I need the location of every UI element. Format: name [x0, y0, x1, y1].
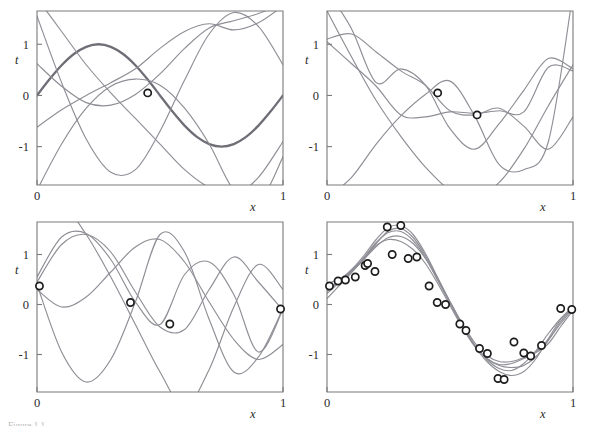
data-point [389, 251, 396, 258]
data-point [36, 282, 43, 289]
x-tick-label: 1 [570, 189, 576, 203]
data-point [557, 305, 564, 312]
y-axis-label: t [305, 263, 309, 277]
panel-top-left-svg: -10101tx [0, 0, 300, 215]
data-point [434, 299, 441, 306]
x-tick-label: 1 [280, 396, 286, 410]
curve-sample-5 [327, 0, 573, 198]
data-point [384, 223, 391, 230]
y-tick-label: 0 [23, 89, 29, 103]
curves-group [327, 225, 573, 376]
data-point [277, 305, 284, 312]
y-axis-label: t [15, 53, 19, 67]
x-tick-label: 0 [324, 396, 330, 410]
data-point [397, 222, 404, 229]
data-point [334, 277, 341, 284]
data-point [127, 299, 134, 306]
panel-bottom-right-svg: -10101tx [290, 211, 590, 429]
y-tick-label: 1 [313, 248, 319, 262]
data-point [538, 342, 545, 349]
y-tick-label: 0 [313, 298, 319, 312]
x-tick-label: 0 [324, 189, 330, 203]
figure-bayesian-curve-fitting: -10101tx -10101tx -10101tx -10101tx Figu… [0, 0, 590, 429]
data-point [527, 352, 534, 359]
figure-caption-clipped: Figure 1.1 [8, 420, 528, 426]
y-axis-label: t [15, 263, 19, 277]
panel-top-right-svg: -10101tx [290, 0, 590, 215]
plot-area-1: -10101tx [305, 0, 576, 214]
plot-area-3: -10101tx [305, 222, 576, 421]
curve-sample-3 [37, 231, 283, 352]
data-point [326, 282, 333, 289]
x-axis-label: x [539, 407, 546, 421]
data-point [473, 111, 480, 118]
curve-sample-5 [37, 6, 283, 127]
y-tick-label: -1 [19, 348, 29, 362]
caption-text: Figure 1.1 [8, 420, 528, 426]
data-point [568, 306, 575, 313]
curve-sample-1 [327, 228, 573, 371]
data-point [144, 89, 151, 96]
y-tick-label: 0 [23, 298, 29, 312]
curve-sample-3 [327, 11, 573, 198]
data-point [442, 301, 449, 308]
panel-top-right: -10101tx [290, 0, 590, 215]
curve-sample-5 [327, 231, 573, 368]
curve-sample-4 [37, 79, 283, 205]
data-point [484, 350, 491, 357]
data-point [405, 255, 412, 262]
plot-area-0: -10101tx [15, 0, 286, 214]
y-tick-label: 1 [23, 248, 29, 262]
data-point [352, 273, 359, 280]
plot-frame [37, 222, 283, 392]
x-axis-label: x [249, 407, 256, 421]
panel-top-left: -10101tx [0, 0, 300, 215]
data-point [425, 282, 432, 289]
data-point [434, 89, 441, 96]
plot-frame [327, 11, 573, 185]
curve-sample-4 [327, 225, 573, 365]
y-axis-label: t [305, 53, 309, 67]
panel-bottom-left: -10101tx [0, 211, 300, 429]
data-point [371, 268, 378, 275]
x-tick-label: 1 [570, 396, 576, 410]
data-point [501, 376, 508, 383]
x-tick-label: 1 [280, 189, 286, 203]
curve-sample-1 [37, 239, 283, 360]
curves-group [327, 0, 573, 198]
curves-group [37, 0, 283, 205]
curves-group [37, 204, 283, 407]
curve-sample-4 [37, 232, 283, 382]
y-tick-label: -1 [309, 348, 319, 362]
y-tick-label: 1 [313, 38, 319, 52]
data-point [364, 260, 371, 267]
panel-bottom-left-svg: -10101tx [0, 211, 300, 429]
data-point [166, 320, 173, 327]
curve-sample-1 [327, 34, 573, 150]
plot-frame [37, 11, 283, 185]
y-tick-label: -1 [309, 140, 319, 154]
data-point [510, 338, 517, 345]
curve-sample-2 [37, 234, 283, 333]
x-tick-label: 0 [34, 189, 40, 203]
data-point [462, 327, 469, 334]
data-point [456, 320, 463, 327]
plot-area-2: -10101tx [15, 204, 286, 421]
plot-frame [327, 222, 573, 392]
data-point [413, 253, 420, 260]
data-point [342, 276, 349, 283]
y-tick-label: 1 [23, 38, 29, 52]
y-tick-label: 0 [313, 89, 319, 103]
x-tick-label: 0 [34, 396, 40, 410]
y-tick-label: -1 [19, 140, 29, 154]
curve-sample-2 [37, 0, 283, 196]
data-point [476, 345, 483, 352]
panel-bottom-right: -10101tx [290, 211, 590, 429]
